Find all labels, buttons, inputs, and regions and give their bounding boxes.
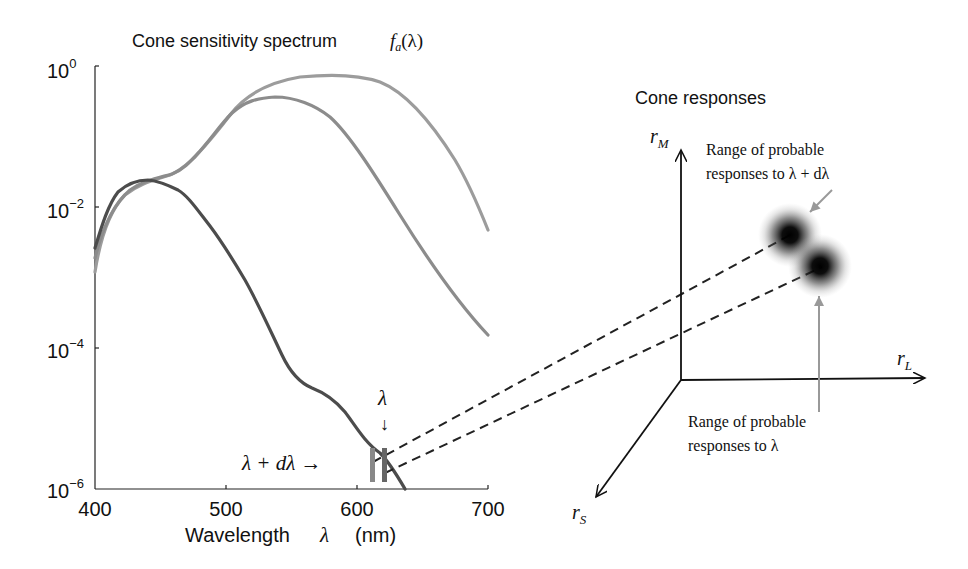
svg-text:700: 700 <box>471 498 504 520</box>
svg-text:responses to λ: responses to λ <box>688 437 779 455</box>
svg-text:(nm): (nm) <box>355 524 396 546</box>
lambda-arrow: ↓ <box>380 414 389 434</box>
svg-text:600: 600 <box>340 498 373 520</box>
svg-text:Range of probable: Range of probable <box>706 141 824 159</box>
svg-text:400: 400 <box>78 498 111 520</box>
cone-response-diagram: Cone responses rM rL rS Range of probabl… <box>572 88 925 527</box>
annotation-top: Range of probable responses to λ + dλ <box>706 141 829 183</box>
svg-text:Wavelength: Wavelength <box>185 524 290 546</box>
svg-text:λ: λ <box>319 523 329 547</box>
axis-rs <box>596 380 681 497</box>
response-distribution-lambda <box>788 234 852 298</box>
svg-text:responses to λ + dλ: responses to λ + dλ <box>706 165 829 183</box>
chart-title: Cone sensitivity spectrum <box>132 31 337 51</box>
x-axis-label: Wavelength λ (nm) <box>185 523 396 547</box>
chart-title-math: fa(λ) <box>390 30 423 54</box>
figure: Cone sensitivity spectrum fa(λ) 100 10−2… <box>0 0 968 569</box>
lambda-marker <box>382 448 387 482</box>
lambda-dlambda-marker <box>370 448 375 482</box>
curve-m-cone <box>95 97 488 335</box>
annotation-bottom: Range of probable responses to λ <box>688 413 806 455</box>
curve-s-cone <box>95 180 405 489</box>
svg-text:100: 100 <box>47 56 76 82</box>
axis-rl <box>681 378 925 380</box>
axis-rl-label: rL <box>897 347 912 373</box>
y-tick-labels: 100 10−2 10−4 10−6 <box>47 56 84 502</box>
x-tick-labels: 400 500 600 700 <box>78 498 504 520</box>
curve-l-cone <box>95 75 488 272</box>
svg-text:10−4: 10−4 <box>47 336 84 362</box>
svg-text:Range of probable: Range of probable <box>688 413 806 431</box>
lambda-label: λ <box>377 386 387 410</box>
pointer-arrow-top <box>810 190 832 212</box>
lambda-dlambda-label: λ + dλ → <box>241 451 322 475</box>
svg-text:10−2: 10−2 <box>47 196 84 222</box>
axis-rs-label: rS <box>572 501 587 527</box>
svg-text:500: 500 <box>209 498 242 520</box>
axis-rm-label: rM <box>650 125 670 151</box>
diagram-title: Cone responses <box>635 88 766 108</box>
